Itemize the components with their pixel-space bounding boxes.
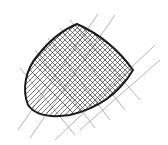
sketch-drawing bbox=[0, 0, 168, 145]
shape-outline bbox=[25, 24, 133, 116]
grid-lines bbox=[18, 14, 160, 140]
